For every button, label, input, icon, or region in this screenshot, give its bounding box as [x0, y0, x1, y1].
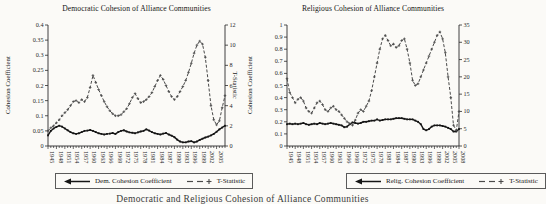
svg-text:0: 0	[230, 142, 233, 149]
svg-text:1990: 1990	[176, 151, 183, 163]
svg-text:1945: 1945	[49, 151, 56, 163]
svg-text:0.3: 0.3	[36, 51, 44, 58]
svg-text:1975: 1975	[133, 151, 140, 163]
svg-text:0.15: 0.15	[33, 97, 44, 104]
legend-label-coefficient: Dem. Cohesion Coefficient	[95, 177, 172, 185]
svg-text:0.2: 0.2	[36, 82, 44, 89]
svg-text:1984: 1984	[395, 151, 402, 163]
svg-text:0.9: 0.9	[275, 33, 283, 40]
svg-text:1948: 1948	[58, 151, 65, 163]
chart-title: Religious Cohesion of Alliance Communiti…	[242, 4, 485, 13]
legend-item-tstat: T-Statistic	[477, 177, 538, 186]
svg-text:2002: 2002	[209, 151, 216, 163]
svg-text:35: 35	[464, 21, 470, 28]
svg-text:1963: 1963	[100, 151, 107, 163]
svg-text:1960: 1960	[91, 151, 98, 163]
svg-text:0.4: 0.4	[36, 21, 44, 28]
svg-text:10: 10	[230, 41, 236, 48]
svg-text:0.25: 0.25	[33, 66, 44, 73]
svg-text:1996: 1996	[427, 151, 434, 163]
svg-text:1966: 1966	[108, 151, 115, 163]
svg-text:1972: 1972	[362, 151, 369, 163]
svg-text:1951: 1951	[305, 151, 312, 163]
svg-text:1984: 1984	[159, 151, 166, 163]
svg-text:12: 12	[230, 21, 236, 28]
coefficient-line-swatch	[63, 177, 91, 186]
svg-text:0.1: 0.1	[275, 130, 283, 137]
svg-text:10: 10	[464, 107, 470, 114]
svg-text:1951: 1951	[66, 151, 73, 163]
tstat-line-swatch	[185, 177, 213, 186]
svg-text:1960: 1960	[329, 151, 336, 163]
chart-title: Democratic Cohesion of Alliance Communit…	[0, 4, 242, 13]
svg-text:1948: 1948	[296, 151, 303, 163]
svg-text:1945: 1945	[288, 151, 295, 163]
svg-text:0.1: 0.1	[36, 112, 44, 119]
svg-text:0.6: 0.6	[275, 69, 283, 76]
svg-text:1999: 1999	[436, 151, 443, 163]
svg-text:5: 5	[464, 125, 467, 132]
legend-item-coefficient: Relig. Cohesion Coefficient	[354, 177, 464, 186]
svg-text:6: 6	[230, 82, 233, 89]
svg-text:1987: 1987	[167, 151, 174, 163]
svg-text:1996: 1996	[192, 151, 199, 163]
svg-text:0.35: 0.35	[33, 36, 44, 43]
legend-item-tstat: T-Statistic	[185, 177, 246, 186]
chart-panel-religious: Religious Cohesion of Alliance Communiti…	[242, 0, 485, 192]
svg-text:0: 0	[40, 142, 43, 149]
svg-text:1978: 1978	[378, 151, 385, 163]
svg-text:1981: 1981	[150, 151, 157, 163]
svg-text:0.2: 0.2	[275, 118, 283, 125]
svg-text:4: 4	[230, 102, 233, 109]
legend-label-tstat: T-Statistic	[217, 177, 246, 185]
svg-text:1981: 1981	[386, 151, 393, 163]
svg-text:2005: 2005	[218, 151, 225, 163]
legend-item-coefficient: Dem. Cohesion Coefficient	[63, 177, 172, 186]
svg-text:2008: 2008	[460, 151, 467, 163]
svg-text:1957: 1957	[321, 151, 328, 163]
svg-text:1963: 1963	[337, 151, 344, 163]
legend-label-tstat: T-Statistic	[509, 177, 538, 185]
svg-text:1957: 1957	[83, 151, 90, 163]
svg-text:1978: 1978	[142, 151, 149, 163]
legend: Dem. Cohesion Coefficient T-Statistic	[55, 173, 253, 189]
svg-text:2: 2	[230, 122, 233, 129]
svg-text:1972: 1972	[125, 151, 132, 163]
svg-text:1993: 1993	[419, 151, 426, 163]
svg-text:0.5: 0.5	[275, 82, 283, 89]
figure-caption: Democratic and Religious Cohesion of All…	[0, 194, 485, 204]
svg-text:30: 30	[464, 38, 470, 45]
svg-text:25: 25	[464, 56, 470, 63]
chart-plot: 00.050.10.150.20.250.30.350.402468101219…	[0, 13, 242, 171]
svg-text:20: 20	[464, 73, 470, 80]
svg-text:2005: 2005	[452, 151, 459, 163]
legend: Relig. Cohesion Coefficient T-Statistic	[346, 173, 546, 189]
svg-text:15: 15	[464, 90, 470, 97]
svg-text:1975: 1975	[370, 151, 377, 163]
svg-text:0: 0	[464, 142, 467, 149]
svg-text:8: 8	[230, 61, 233, 68]
svg-text:1987: 1987	[403, 151, 410, 163]
svg-text:1990: 1990	[411, 151, 418, 163]
svg-text:0.3: 0.3	[275, 106, 283, 113]
svg-text:0.4: 0.4	[275, 94, 283, 101]
svg-text:1969: 1969	[117, 151, 124, 163]
coefficient-line-swatch	[354, 177, 382, 186]
svg-text:1969: 1969	[354, 151, 361, 163]
tstat-line-swatch	[477, 177, 505, 186]
svg-text:2002: 2002	[444, 151, 451, 163]
svg-text:1954: 1954	[74, 151, 81, 163]
svg-text:1993: 1993	[184, 151, 191, 163]
svg-text:0.05: 0.05	[33, 127, 44, 134]
svg-text:1966: 1966	[346, 151, 353, 163]
legend-label-coefficient: Relig. Cohesion Coefficient	[386, 177, 464, 185]
svg-text:1999: 1999	[201, 151, 208, 163]
svg-text:0.8: 0.8	[275, 45, 283, 52]
svg-text:0.7: 0.7	[275, 57, 283, 64]
chart-panel-democratic: Democratic Cohesion of Alliance Communit…	[0, 0, 242, 192]
svg-text:0: 0	[279, 142, 282, 149]
svg-text:1954: 1954	[313, 151, 320, 163]
svg-text:1: 1	[279, 21, 282, 28]
chart-plot: 00.10.20.30.40.50.60.70.80.9105101520253…	[242, 13, 485, 171]
